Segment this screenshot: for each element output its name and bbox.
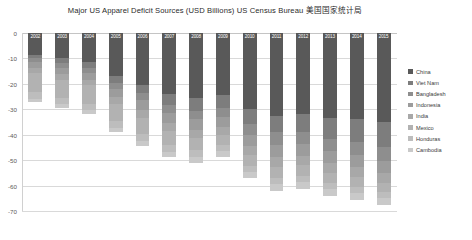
bar-segment[interactable] bbox=[82, 85, 96, 103]
legend-item[interactable]: India bbox=[408, 111, 470, 122]
bar-group[interactable]: 2009 bbox=[216, 33, 230, 157]
bar-segment[interactable] bbox=[270, 184, 284, 191]
legend-item[interactable]: Bangladesh bbox=[408, 88, 470, 99]
bar-group[interactable]: 2007 bbox=[162, 33, 176, 157]
bar-segment[interactable] bbox=[377, 33, 391, 122]
legend-item[interactable]: Cambodia bbox=[408, 144, 470, 155]
bar-segment[interactable] bbox=[109, 104, 123, 121]
bar-segment[interactable] bbox=[136, 110, 150, 118]
bar-segment[interactable] bbox=[162, 105, 176, 113]
bar-segment[interactable] bbox=[162, 145, 176, 152]
bar-segment[interactable] bbox=[162, 123, 176, 131]
bar-segment[interactable] bbox=[350, 155, 364, 167]
bar-segment[interactable] bbox=[270, 178, 284, 185]
bar-segment[interactable] bbox=[296, 176, 310, 183]
bar-segment[interactable] bbox=[350, 33, 364, 119]
bar-segment[interactable] bbox=[28, 73, 42, 92]
bar-segment[interactable] bbox=[350, 119, 364, 142]
bar-segment[interactable] bbox=[189, 111, 203, 120]
bar-segment[interactable] bbox=[216, 108, 230, 117]
bar-segment[interactable] bbox=[189, 98, 203, 111]
bar-segment[interactable] bbox=[296, 132, 310, 144]
bar-segment[interactable] bbox=[162, 131, 176, 145]
bar-segment[interactable] bbox=[270, 157, 284, 167]
bar-segment[interactable] bbox=[109, 128, 123, 132]
bar-segment[interactable] bbox=[323, 118, 337, 138]
bar-segment[interactable] bbox=[377, 122, 391, 147]
bar-group[interactable]: 2006 bbox=[136, 33, 150, 146]
bar-segment[interactable] bbox=[55, 33, 69, 58]
bar-segment[interactable] bbox=[216, 127, 230, 135]
legend-item[interactable]: Mexico bbox=[408, 122, 470, 133]
bar-group[interactable]: 2005 bbox=[109, 33, 123, 132]
bar-segment[interactable] bbox=[109, 76, 123, 83]
legend-item[interactable]: Honduras bbox=[408, 133, 470, 144]
bar-segment[interactable] bbox=[136, 33, 150, 85]
bar-group[interactable]: 2002 bbox=[28, 33, 42, 102]
bar-segment[interactable] bbox=[243, 135, 257, 146]
bar-segment[interactable] bbox=[216, 95, 230, 108]
bar-segment[interactable] bbox=[350, 177, 364, 186]
bar-segment[interactable] bbox=[189, 130, 203, 138]
bar-segment[interactable] bbox=[216, 33, 230, 95]
bar-segment[interactable] bbox=[189, 150, 203, 157]
bar-segment[interactable] bbox=[189, 33, 203, 98]
bar-segment[interactable] bbox=[189, 119, 203, 130]
bar-segment[interactable] bbox=[377, 147, 391, 160]
bar-segment[interactable] bbox=[216, 151, 230, 156]
bar-segment[interactable] bbox=[216, 135, 230, 146]
bar-segment[interactable] bbox=[296, 156, 310, 165]
bar-segment[interactable] bbox=[323, 139, 337, 152]
bar-segment[interactable] bbox=[323, 189, 337, 196]
legend-item[interactable]: Indonesia bbox=[408, 100, 470, 111]
bar-group[interactable]: 2011 bbox=[270, 33, 284, 191]
bar-group[interactable]: 2010 bbox=[243, 33, 257, 178]
bar-segment[interactable] bbox=[55, 80, 69, 99]
bar-segment[interactable] bbox=[82, 33, 96, 62]
bar-segment[interactable] bbox=[162, 152, 176, 157]
bar-segment[interactable] bbox=[243, 155, 257, 166]
bar-group[interactable]: 2015 bbox=[377, 33, 391, 205]
bar-segment[interactable] bbox=[243, 124, 257, 135]
bar-segment[interactable] bbox=[323, 173, 337, 183]
bar-segment[interactable] bbox=[323, 163, 337, 173]
bar-segment[interactable] bbox=[82, 110, 96, 114]
bar-segment[interactable] bbox=[55, 104, 69, 108]
bar-segment[interactable] bbox=[323, 33, 337, 118]
bar-segment[interactable] bbox=[270, 116, 284, 133]
bar-segment[interactable] bbox=[270, 132, 284, 144]
bar-segment[interactable] bbox=[377, 173, 391, 183]
bar-segment[interactable] bbox=[189, 138, 203, 150]
bar-segment[interactable] bbox=[350, 167, 364, 177]
bar-segment[interactable] bbox=[296, 33, 310, 114]
bar-segment[interactable] bbox=[296, 165, 310, 175]
bar-segment[interactable] bbox=[270, 145, 284, 158]
bar-segment[interactable] bbox=[136, 93, 150, 100]
bar-segment[interactable] bbox=[136, 134, 150, 141]
bar-segment[interactable] bbox=[136, 118, 150, 134]
bar-segment[interactable] bbox=[136, 141, 150, 146]
bar-segment[interactable] bbox=[189, 157, 203, 163]
bar-segment[interactable] bbox=[109, 33, 123, 76]
bar-segment[interactable] bbox=[377, 183, 391, 192]
bar-segment[interactable] bbox=[109, 89, 123, 97]
bar-segment[interactable] bbox=[323, 151, 337, 163]
bar-segment[interactable] bbox=[350, 193, 364, 200]
bar-segment[interactable] bbox=[296, 182, 310, 189]
bar-group[interactable]: 2008 bbox=[189, 33, 203, 163]
bar-segment[interactable] bbox=[377, 198, 391, 205]
bar-segment[interactable] bbox=[296, 114, 310, 132]
bar-segment[interactable] bbox=[270, 33, 284, 116]
bar-group[interactable]: 2004 bbox=[82, 33, 96, 114]
bar-group[interactable]: 2013 bbox=[323, 33, 337, 196]
bar-segment[interactable] bbox=[109, 97, 123, 105]
bar-segment[interactable] bbox=[243, 109, 257, 124]
bar-group[interactable]: 2014 bbox=[350, 33, 364, 200]
bar-segment[interactable] bbox=[270, 167, 284, 178]
bar-segment[interactable] bbox=[28, 33, 42, 55]
bar-segment[interactable] bbox=[162, 94, 176, 105]
bar-segment[interactable] bbox=[162, 113, 176, 123]
bar-segment[interactable] bbox=[162, 33, 176, 94]
bar-segment[interactable] bbox=[28, 99, 42, 102]
bar-segment[interactable] bbox=[243, 33, 257, 109]
